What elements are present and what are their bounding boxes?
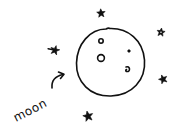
star-left-icon xyxy=(47,44,60,55)
crater-swirl-right-icon xyxy=(126,67,130,72)
crater-small-top-icon xyxy=(99,39,103,43)
curved-arrow-icon xyxy=(52,72,64,88)
star-right-icon xyxy=(157,73,168,84)
moon-sketch: moon xyxy=(0,0,180,132)
star-top-right-icon xyxy=(156,27,165,36)
moon-label: moon xyxy=(11,96,49,125)
crater-medium-left-icon xyxy=(98,55,105,62)
craters xyxy=(98,39,131,72)
crater-dot-right-icon xyxy=(128,50,131,53)
stars xyxy=(47,8,168,121)
moon-outline-icon xyxy=(76,28,144,96)
star-bottom-icon xyxy=(82,110,94,122)
star-top-icon xyxy=(96,8,105,17)
